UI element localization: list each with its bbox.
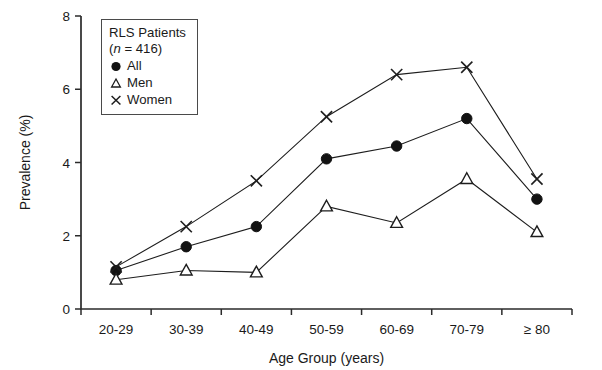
y-tick-label: 6 — [62, 82, 70, 97]
legend-n-value: = 416) — [121, 41, 162, 56]
data-point-women-4049 — [251, 175, 262, 186]
y-tick-label: 0 — [62, 302, 70, 317]
x-axis-title: Age Group (years) — [269, 350, 384, 366]
data-point-all-80 — [532, 194, 542, 204]
data-point-all-3039 — [181, 242, 191, 252]
chart-canvas: 0246820-2930-3940-4950-5960-6970-79≥ 80A… — [0, 0, 602, 370]
series-line-all — [116, 119, 537, 271]
prevalence-line-chart: 0246820-2930-3940-4950-5960-6970-79≥ 80A… — [0, 0, 602, 370]
legend-label-all: All — [127, 58, 142, 74]
legend-n-symbol: n — [113, 41, 120, 56]
y-axis-title: Prevalence (%) — [17, 115, 33, 211]
data-point-women-5059 — [321, 111, 332, 122]
data-point-all-6069 — [391, 141, 401, 151]
legend-label-men: Men — [127, 75, 153, 91]
data-point-men-3039 — [180, 264, 192, 275]
legend-label-women: Women — [127, 92, 172, 108]
data-point-all-7079 — [462, 113, 472, 123]
data-point-women-3039 — [181, 221, 192, 232]
data-point-all-4049 — [251, 221, 261, 231]
x-tick-label: 50-59 — [309, 322, 344, 337]
legend-item-men: Men — [109, 75, 191, 91]
data-point-men-7079 — [461, 173, 473, 184]
x-tick-label: 40-49 — [239, 322, 274, 337]
x-tick-label: 20-29 — [99, 322, 134, 337]
legend-sample-size: (n = 416) — [109, 41, 191, 57]
x-tick-label: 60-69 — [379, 322, 414, 337]
data-point-men-80 — [531, 226, 543, 237]
series-line-men — [116, 179, 537, 280]
legend-item-women: Women — [109, 92, 191, 108]
chart-legend: RLS Patients (n = 416) All Men Women — [101, 19, 198, 115]
cross-x-icon — [109, 93, 126, 107]
y-tick-label: 2 — [62, 229, 70, 244]
data-point-all-5059 — [321, 154, 331, 164]
legend-title: RLS Patients — [109, 25, 191, 41]
y-tick-label: 4 — [62, 156, 70, 171]
x-tick-label: 70-79 — [450, 322, 485, 337]
x-tick-label: ≥ 80 — [524, 322, 550, 337]
open-triangle-icon — [109, 76, 126, 90]
axis-labels-group: 0246820-2930-3940-4950-5960-6970-79≥ 80A… — [17, 9, 550, 366]
y-tick-label: 8 — [62, 9, 70, 24]
filled-circle-icon — [109, 59, 126, 73]
x-tick-label: 30-39 — [169, 322, 204, 337]
data-point-women-80 — [531, 173, 542, 184]
legend-item-all: All — [109, 58, 191, 74]
data-point-men-5059 — [321, 200, 333, 211]
